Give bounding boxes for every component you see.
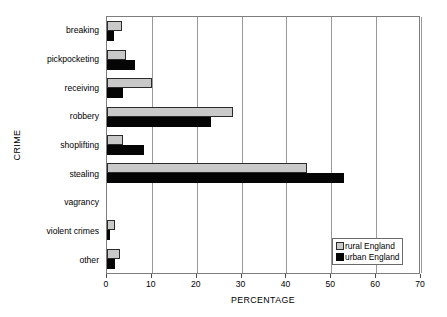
- tick-mark: [375, 274, 376, 278]
- category-label: other: [24, 245, 103, 274]
- tick-mark: [196, 274, 197, 278]
- bar-group: [107, 188, 419, 216]
- bar-group: [107, 45, 419, 73]
- tick-mark: [106, 274, 107, 278]
- bar-groups: [107, 17, 419, 273]
- bar-rural: [107, 135, 123, 145]
- bar-rural: [107, 78, 152, 88]
- legend: rural Englandurban England: [332, 238, 403, 265]
- bar-urban: [107, 117, 211, 127]
- x-axis-tick-labels: 010203040506070: [106, 279, 420, 292]
- tick-mark: [151, 274, 152, 278]
- x-tick-label: 40: [281, 279, 291, 289]
- category-label: robbery: [24, 102, 103, 131]
- legend-entry[interactable]: urban England: [336, 252, 399, 262]
- bar-rural: [107, 50, 126, 60]
- category-label: breaking: [24, 16, 103, 45]
- category-label: violent crimes: [24, 217, 103, 246]
- bar-group: [107, 74, 419, 102]
- bar-urban: [107, 259, 115, 269]
- bar-urban: [107, 145, 144, 155]
- bar-rural: [107, 220, 115, 230]
- bar-urban: [107, 60, 135, 70]
- gridline: [421, 17, 422, 273]
- tick-mark: [420, 274, 421, 278]
- legend-swatch-urban-icon: [336, 253, 344, 261]
- tick-mark: [330, 274, 331, 278]
- x-tick-label: 20: [191, 279, 201, 289]
- bar-urban: [107, 173, 344, 183]
- category-axis-labels: breakingpickpocketingreceivingrobberysho…: [24, 16, 103, 274]
- bar-chart: CRIME breakingpickpocketingreceivingrobb…: [0, 0, 447, 317]
- x-tick-label: 0: [104, 279, 109, 289]
- bar-urban: [107, 230, 110, 240]
- tick-mark: [285, 274, 286, 278]
- category-label: shoplifting: [24, 131, 103, 160]
- x-tick-label: 50: [326, 279, 336, 289]
- bar-urban: [107, 31, 114, 41]
- category-label: vagrancy: [24, 188, 103, 217]
- bar-group: [107, 159, 419, 187]
- legend-label: urban England: [345, 252, 399, 262]
- plot-area: [106, 16, 420, 274]
- x-tick-label: 10: [146, 279, 156, 289]
- category-label: receiving: [24, 73, 103, 102]
- y-axis-title-text: CRIME: [11, 130, 21, 161]
- x-tick-label: 30: [236, 279, 246, 289]
- bar-rural: [107, 107, 233, 117]
- category-label: pickpocketing: [24, 45, 103, 74]
- x-axis-title: PERCENTAGE: [106, 295, 420, 305]
- bar-rural: [107, 249, 120, 259]
- tick-mark: [241, 274, 242, 278]
- legend-entry[interactable]: rural England: [336, 241, 399, 251]
- bar-group: [107, 131, 419, 159]
- x-tick-label: 60: [370, 279, 380, 289]
- x-tick-label: 70: [415, 279, 425, 289]
- legend-label: rural England: [345, 241, 395, 251]
- bar-group: [107, 17, 419, 45]
- bar-rural: [107, 21, 122, 31]
- legend-swatch-rural-icon: [336, 242, 344, 250]
- y-axis-title: CRIME: [6, 0, 26, 290]
- bar-group: [107, 102, 419, 130]
- category-label: stealing: [24, 159, 103, 188]
- bar-urban: [107, 88, 123, 98]
- bar-rural: [107, 163, 307, 173]
